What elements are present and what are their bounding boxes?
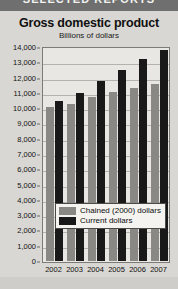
y-axis-tick: [37, 216, 40, 217]
y-axis-tick-label: 5,000: [17, 182, 36, 190]
y-axis-tick: [37, 63, 40, 64]
y-axis-tick-label: 9,000: [17, 121, 36, 129]
bar-2003-current: [76, 93, 85, 261]
chart-legend: Chained (2000) dollars Current dollars: [55, 203, 166, 229]
y-axis-tick-label: 8,000: [17, 136, 36, 144]
bar-2006-current: [139, 59, 148, 261]
y-axis-tick-label: 13,000: [13, 60, 36, 68]
y-axis-tick-label: 10,000: [13, 105, 36, 113]
y-axis-tick-label: 3,000: [17, 212, 36, 220]
y-axis-tick: [37, 185, 40, 186]
y-axis-tick: [37, 231, 40, 232]
y-axis-tick: [37, 93, 40, 94]
legend-item-chained: Chained (2000) dollars: [59, 207, 161, 215]
y-axis-tick: [37, 124, 40, 125]
y-axis-tick: [37, 155, 40, 156]
bar-2007-chained: [151, 84, 160, 261]
y-axis-tick-label: 1,000: [17, 243, 36, 251]
y-axis-tick: [37, 246, 40, 247]
legend-label-current: Current dollars: [80, 217, 132, 225]
bar-series-container: [44, 49, 168, 261]
chart-subtitle: Billions of dollars: [0, 31, 178, 40]
y-axis-tick-label: 2,000: [17, 228, 36, 236]
y-axis-tick-label: 12,000: [13, 75, 36, 83]
legend-swatch-chained-icon: [59, 207, 76, 215]
legend-label-chained: Chained (2000) dollars: [80, 207, 161, 215]
y-axis-tick-label: 14,000: [13, 44, 36, 52]
y-axis-tick-label: 6,000: [17, 167, 36, 175]
x-axis-labels: 200220032004200520062007: [42, 265, 170, 277]
legend-swatch-current-icon: [59, 217, 76, 225]
plot-area: Chained (2000) dollars Current dollars: [42, 47, 170, 263]
y-axis-tick: [37, 262, 40, 263]
bar-group: [109, 49, 127, 261]
x-axis-tick-label: 2005: [108, 265, 125, 274]
y-axis-tick-label: 4,000: [17, 197, 36, 205]
plot-background: [42, 47, 170, 263]
chart-figure: Gross domestic product Billions of dolla…: [0, 11, 178, 277]
x-axis-tick-label: 2006: [129, 265, 146, 274]
bar-2004-chained: [88, 97, 97, 261]
y-axis-labels: 01,0002,0003,0004,0005,0006,0007,0008,00…: [0, 47, 40, 263]
bar-2005-current: [118, 70, 127, 261]
x-axis-tick-label: 2003: [66, 265, 83, 274]
x-axis-tick-label: 2002: [45, 265, 62, 274]
bar-group: [88, 49, 106, 261]
bar-2003-chained: [67, 104, 76, 261]
legend-item-current: Current dollars: [59, 217, 161, 225]
y-axis-tick: [37, 139, 40, 140]
chart-page: SELECTED REPORTS Gross domestic product …: [0, 0, 178, 289]
chart-title: Gross domestic product: [0, 16, 178, 30]
bar-2007-current: [160, 50, 169, 261]
y-axis-tick: [37, 170, 40, 171]
bar-group: [46, 49, 64, 261]
bar-2005-chained: [109, 92, 118, 261]
bar-group: [67, 49, 85, 261]
x-axis-tick-label: 2004: [87, 265, 104, 274]
bar-2004-current: [97, 81, 106, 261]
y-axis-tick: [37, 109, 40, 110]
x-axis-tick-label: 2007: [150, 265, 167, 274]
bar-2002-chained: [46, 107, 55, 261]
bar-2006-chained: [130, 88, 139, 261]
y-axis-tick-label: 0: [32, 258, 36, 266]
y-axis-tick: [37, 200, 40, 201]
bar-group: [151, 49, 169, 261]
bar-group: [130, 49, 148, 261]
y-axis-tick: [37, 48, 40, 49]
header-banner: SELECTED REPORTS: [0, 0, 178, 11]
bar-2002-current: [55, 101, 64, 262]
banner-title: SELECTED REPORTS: [0, 0, 178, 5]
y-axis-tick-label: 7,000: [17, 151, 36, 159]
y-axis-tick: [37, 78, 40, 79]
y-axis-tick-label: 11,000: [14, 90, 36, 98]
